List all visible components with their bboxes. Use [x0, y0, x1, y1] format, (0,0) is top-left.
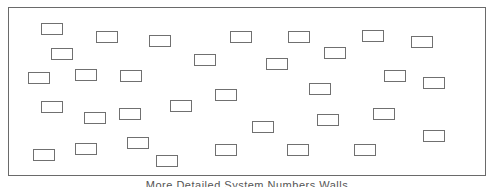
diagram-box	[120, 70, 142, 82]
diagram-box	[317, 114, 339, 126]
diagram-box	[373, 108, 395, 120]
diagram-box	[384, 70, 406, 82]
diagram-box	[127, 137, 149, 149]
diagram-box	[75, 69, 97, 81]
diagram-box	[75, 143, 97, 155]
diagram-box	[149, 35, 171, 47]
diagram-box	[215, 144, 237, 156]
diagram-box	[96, 31, 118, 43]
diagram-box	[215, 89, 237, 101]
diagram-box	[170, 100, 192, 112]
diagram-box	[324, 47, 346, 59]
diagram-box	[230, 31, 252, 43]
diagram-box	[362, 30, 384, 42]
diagram-box	[28, 72, 50, 84]
diagram-box	[288, 31, 310, 43]
diagram-box	[266, 58, 288, 70]
diagram-box	[423, 77, 445, 89]
diagram-box	[119, 108, 141, 120]
diagram-box	[287, 144, 309, 156]
diagram-box	[423, 130, 445, 142]
diagram-box	[309, 83, 331, 95]
figure-caption: More Detailed System Numbers Walls	[0, 179, 494, 187]
diagram-box	[51, 48, 73, 60]
diagram-box	[354, 144, 376, 156]
diagram-box	[252, 121, 274, 133]
diagram-box	[41, 23, 63, 35]
diagram-box	[194, 54, 216, 66]
diagram-box	[411, 36, 433, 48]
diagram-box	[41, 101, 63, 113]
diagram-box	[156, 155, 178, 167]
diagram-box	[33, 149, 55, 161]
diagram-box	[84, 112, 106, 124]
